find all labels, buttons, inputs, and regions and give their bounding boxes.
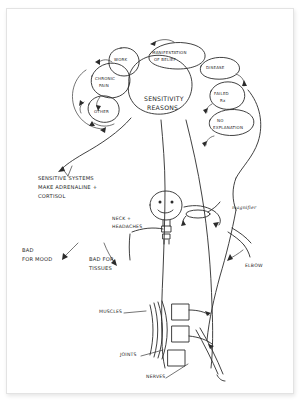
central-node-label-line1: SENSITIVITY [144, 95, 184, 102]
annotation-bad-for-tissues-line2: TISSUES [89, 266, 112, 272]
annotation-magnifier: magnifier [232, 205, 256, 210]
bubble-label-chronic-pain-line1[interactable]: CHRONIC [95, 77, 115, 82]
bubble-manifestation-of-belief [149, 42, 205, 69]
bubble-label-other[interactable]: OTHER [94, 110, 109, 115]
annotation-sensitive-systems-line3: CORTISOL [38, 194, 66, 200]
annotation-muscles: MUSCLES [99, 309, 122, 314]
screenshot-root: SENSITIVITY REASONS WORK MANIFESTATION O… [0, 0, 303, 403]
annotation-neck-headaches-line2: HEADACHES [112, 224, 142, 229]
muscles-group [150, 301, 214, 366]
annotation-sensitive-systems-line1: SENSITIVE SYSTEMS [38, 176, 94, 182]
head-smiley [150, 191, 182, 220]
bubble-label-manifestation-line2[interactable]: OF BELIEF [154, 58, 176, 63]
hand-drawn-diagram [0, 0, 303, 403]
annotation-joints: JOINTS [120, 352, 137, 357]
annotation-neck-headaches-line1: NECK + [112, 216, 131, 221]
bubble-label-chronic-pain-line2[interactable]: PAIN [99, 84, 109, 89]
nerves-strands [196, 328, 225, 381]
bubble-label-failed-rx-line1[interactable]: FAILED [214, 92, 229, 97]
bubble-label-failed-rx-line2[interactable]: Rx [220, 99, 226, 104]
bubble-label-disease[interactable]: DISEASE [206, 66, 225, 71]
bubble-label-work[interactable]: WORK [114, 58, 127, 63]
hip-connector [129, 228, 163, 260]
leader-lines [124, 311, 188, 378]
arm-elbow-loop [184, 206, 251, 261]
annotation-sensitive-systems-line2: MAKE ADRENALINE + [38, 185, 97, 191]
annotation-nerves: NERVES [146, 374, 165, 379]
bubble-label-no-explanation-line2[interactable]: EXPLANATION [213, 126, 243, 131]
annotation-bad-for-mood-line1: BAD [22, 248, 34, 254]
neck-spine-stack [162, 220, 171, 244]
bubble-label-manifestation-line1[interactable]: MANIFESTATION [152, 51, 187, 56]
annotation-elbow: ELBOW [245, 263, 263, 268]
bubble-label-no-explanation-line1[interactable]: NO [217, 119, 224, 124]
annotation-bad-for-tissues-line1: BAD FOR [89, 257, 114, 263]
outer-flow-arc [233, 90, 261, 210]
bubble-no-explanation [209, 109, 254, 135]
annotation-bad-for-mood-line2: FOR MOOD [22, 257, 53, 263]
left-descending-curve [58, 118, 131, 172]
central-node-label-line2: REASONS [147, 104, 178, 111]
